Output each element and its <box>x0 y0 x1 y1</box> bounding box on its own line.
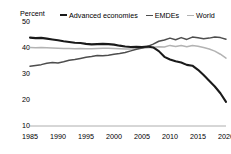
plot-area <box>0 0 231 154</box>
series-line-advanced-economies <box>30 38 226 102</box>
plot-lines <box>0 0 231 154</box>
chart-container: Percent Advanced economies EMDEs World 1… <box>0 0 231 154</box>
